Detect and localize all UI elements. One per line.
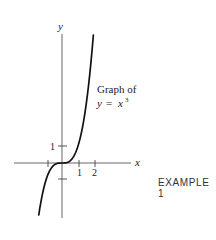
y-tick-label-1: 1 bbox=[50, 141, 55, 152]
equation-exponent: 3 bbox=[125, 96, 129, 104]
x-tick-label-1: 1 bbox=[77, 167, 82, 178]
cubic-curve bbox=[39, 35, 94, 215]
y-axis-label: y bbox=[57, 20, 63, 32]
equation-rhs: x bbox=[117, 97, 123, 109]
example-caption: EXAMPLE 1 bbox=[158, 177, 216, 199]
equation-lhs: y bbox=[96, 97, 102, 109]
graph-annotation-line1: Graph of bbox=[97, 83, 137, 95]
equation-equals: = bbox=[106, 97, 112, 109]
x-tick-label-2: 2 bbox=[92, 167, 97, 178]
graph-annotation-equation: y = x 3 bbox=[96, 96, 129, 109]
x-axis-label: x bbox=[134, 156, 140, 168]
